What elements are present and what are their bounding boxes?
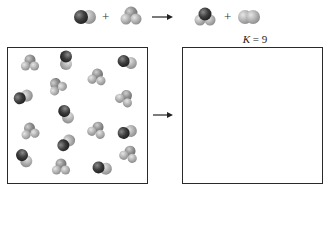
- h2o-molecule: [45, 74, 69, 97]
- h2o-molecule: [118, 143, 141, 164]
- co-molecule: [116, 124, 138, 141]
- h2o-molecule: [86, 119, 109, 140]
- h2o-molecule: [113, 86, 137, 109]
- co-molecule: [55, 132, 78, 154]
- co-molecule: [60, 51, 72, 71]
- h2o-molecule: [21, 55, 39, 71]
- h2o-molecule: [20, 121, 41, 140]
- co-molecule: [92, 160, 113, 175]
- h2o-molecule: [52, 159, 70, 175]
- co-molecule: [116, 54, 138, 71]
- co-molecule: [12, 88, 34, 106]
- equilibrium-mixture-box: [182, 47, 323, 184]
- h2o-molecule: [87, 67, 108, 86]
- process-arrow-icon: [153, 111, 175, 119]
- co-molecule: [56, 103, 76, 126]
- co-molecule: [14, 147, 35, 170]
